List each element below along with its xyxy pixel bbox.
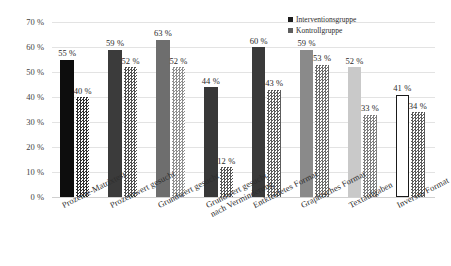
y-axis-tick-label: 20 %: [0, 142, 44, 152]
bar: [315, 65, 329, 198]
bar-value-label: 43 %: [261, 78, 287, 88]
chart-legend: Interventionsgruppe Kontrollgruppe: [288, 14, 356, 36]
bar-value-label: 60 %: [246, 36, 272, 46]
bar-value-label: 52 %: [342, 56, 368, 66]
bar-value-label: 40 %: [70, 86, 96, 96]
bar-value-label: 52 %: [166, 56, 192, 66]
y-axis-tick-label: 50 %: [0, 67, 44, 77]
y-axis-tick-label: 40 %: [0, 92, 44, 102]
bar-value-label: 59 %: [102, 38, 128, 48]
bar-value-label: 59 %: [294, 38, 320, 48]
bar: [363, 115, 377, 198]
bar-value-label: 33 %: [357, 103, 383, 113]
bar-value-label: 12 %: [214, 156, 240, 166]
bar: [348, 67, 362, 197]
legend-item-interventionsgruppe: Interventionsgruppe: [288, 14, 356, 25]
y-axis-tick-label: 10 %: [0, 167, 44, 177]
bar: [204, 87, 218, 197]
bar: [267, 90, 281, 198]
bars-layer: 55 %40 %59 %52 %63 %52 %44 %12 %60 %43 %…: [52, 22, 435, 197]
bar-value-label: 41 %: [390, 83, 416, 93]
bar: [220, 167, 234, 197]
bar: [76, 97, 90, 197]
bar: [300, 50, 314, 198]
bar: [252, 47, 266, 197]
interventionsgruppe-swatch-icon: [288, 17, 293, 22]
legend-label-kontrollgruppe: Kontrollgruppe: [296, 25, 342, 36]
y-axis-tick-label: 60 %: [0, 42, 44, 52]
legend-label-interventionsgruppe: Interventionsgruppe: [296, 14, 356, 25]
y-axis-tick-label: 0 %: [0, 192, 44, 202]
bar: [108, 50, 122, 198]
bar-value-label: 34 %: [405, 101, 431, 111]
bar-value-label: 53 %: [309, 53, 335, 63]
bar-value-label: 63 %: [150, 28, 176, 38]
x-axis-line: [52, 197, 435, 198]
y-axis-tick-label: 30 %: [0, 117, 44, 127]
bar-value-label: 55 %: [54, 48, 80, 58]
bar: [124, 67, 138, 197]
plot-area: 55 %40 %59 %52 %63 %52 %44 %12 %60 %43 %…: [52, 22, 435, 197]
legend-item-kontrollgruppe: Kontrollgruppe: [288, 25, 356, 36]
bar: [60, 60, 74, 198]
bar: [172, 67, 186, 197]
kontrollgruppe-swatch-icon: [288, 28, 293, 33]
bar-value-label: 44 %: [198, 76, 224, 86]
bar-value-label: 52 %: [118, 56, 144, 66]
bar: [411, 112, 425, 197]
y-axis-tick-label: 70 %: [0, 17, 44, 27]
y-axis: 0 %10 %20 %30 %40 %50 %60 %70 %: [0, 22, 48, 197]
